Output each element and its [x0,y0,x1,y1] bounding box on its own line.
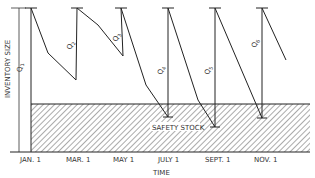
x-axis-label: TIME [152,169,170,177]
x-tick-may: MAY 1 [113,156,134,164]
x-tick-jan: JAN. 1 [19,156,41,164]
x-tick-jul: JULY 1 [157,156,179,164]
q4-label: Q4 [156,65,167,76]
x-tick-nov: NOV. 1 [254,156,277,164]
y-axis-label: INVENTORY SIZE [4,40,12,98]
q1-label: Q1 [16,63,25,72]
x-tick-sep: SEPT. 1 [205,156,230,164]
q2-label: Q2 [65,40,76,51]
q5-label: Q5 [203,65,214,76]
safety-stock-label: SAFETY STOCK [152,124,205,132]
inventory-chart: Q1 Q2 Q3 Q4 Q5 Q6 SAFETY STOCK INVENTORY… [0,0,315,178]
q3-label: Q3 [111,32,122,43]
q6-label: Q6 [250,38,261,49]
x-tick-mar: MAR. 1 [66,156,90,164]
